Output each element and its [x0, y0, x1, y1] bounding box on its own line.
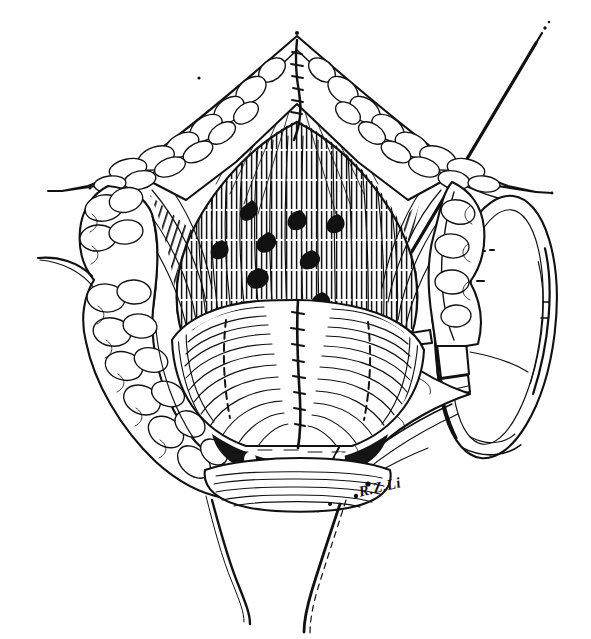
illustration-canvas	[0, 0, 591, 639]
surgical-illustration-figure: R.Z.Li	[0, 0, 591, 639]
